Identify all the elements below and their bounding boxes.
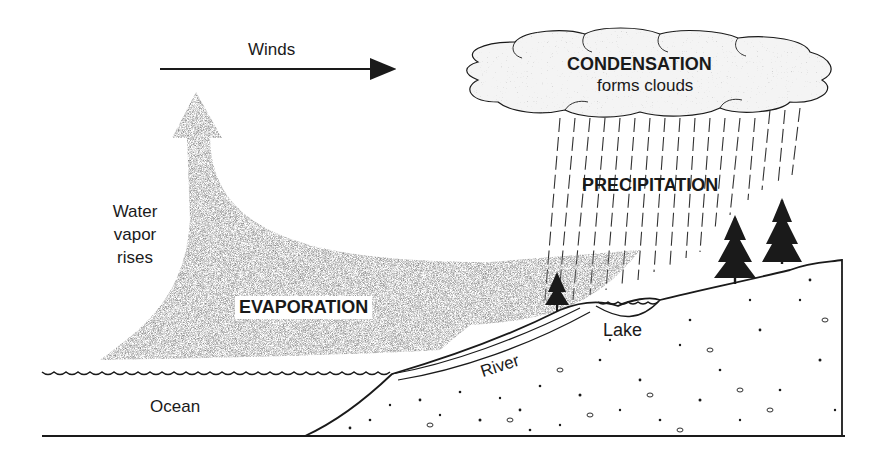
- tree-icon-tall: [762, 198, 802, 264]
- precipitation-label: PRECIPITATION: [582, 175, 718, 196]
- lake-label: Lake: [603, 320, 642, 341]
- water-vapor-line-2: vapor: [100, 223, 170, 246]
- condensation-sublabel: forms clouds: [597, 76, 693, 96]
- ocean-surface: [42, 372, 390, 375]
- ocean-label: Ocean: [150, 397, 200, 417]
- evaporation-label: EVAPORATION: [235, 296, 372, 319]
- water-vapor-line-1: Water: [100, 200, 170, 223]
- winds-label: Winds: [248, 40, 295, 60]
- tree-icon-middle: [714, 215, 756, 284]
- condensation-label: CONDENSATION: [567, 54, 712, 75]
- water-vapor-line-3: rises: [100, 246, 170, 269]
- water-vapor-label: Water vapor rises: [100, 200, 170, 269]
